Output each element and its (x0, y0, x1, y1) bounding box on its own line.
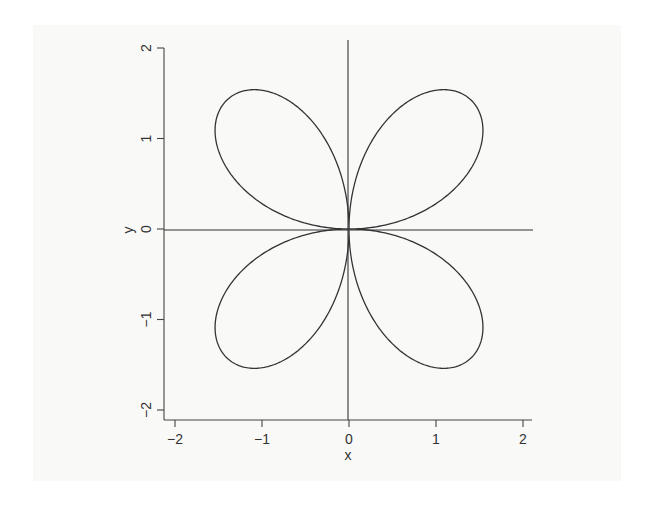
y-tick-label: 2 (138, 44, 154, 52)
y-tick-label: −2 (138, 402, 154, 418)
y-tick-label: −1 (138, 311, 154, 327)
rose-curve-series (215, 90, 483, 369)
rose-curve-chart: −2−1012 −2−1012 x y (0, 0, 646, 512)
x-tick-label: 2 (519, 431, 527, 447)
y-axis-title: y (120, 227, 136, 234)
x-tick-label: 0 (345, 431, 353, 447)
x-tick-label: 1 (432, 431, 440, 447)
x-axis-title: x (345, 447, 352, 463)
y-tick-label: 0 (138, 225, 154, 233)
x-tick-label: −1 (254, 431, 270, 447)
x-axis-ticks: −2−1012 (167, 420, 527, 447)
x-tick-label: −2 (167, 431, 183, 447)
y-axis-ticks: −2−1012 (138, 44, 164, 418)
y-tick-label: 1 (138, 134, 154, 142)
